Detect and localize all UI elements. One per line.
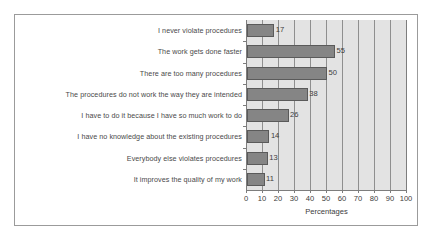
- x-tick-mark: [294, 190, 295, 193]
- x-tick-mark: [262, 190, 263, 193]
- y-tick-mark: [243, 63, 246, 64]
- category-label: I have no knowledge about the existing p…: [77, 126, 242, 147]
- category-axis-labels: I never violate proceduresThe work gets …: [18, 20, 246, 190]
- y-tick-mark: [243, 169, 246, 170]
- bar: [247, 24, 274, 37]
- x-tick-mark: [246, 190, 247, 193]
- category-label: I never violate procedures: [158, 20, 242, 41]
- x-tick-mark: [390, 190, 391, 193]
- x-tick-label: 100: [396, 194, 416, 204]
- bar-value-label: 14: [271, 129, 279, 143]
- bar: [247, 152, 268, 165]
- x-tick-mark: [358, 190, 359, 193]
- y-tick-mark: [243, 126, 246, 127]
- plot-area: 1755503826141311: [246, 20, 407, 190]
- x-tick-mark: [374, 190, 375, 193]
- y-tick-mark: [243, 148, 246, 149]
- y-tick-mark: [243, 41, 246, 42]
- category-label: Everybody else violates procedures: [127, 148, 242, 169]
- bar: [247, 109, 289, 122]
- x-tick-mark: [310, 190, 311, 193]
- y-tick-mark: [243, 105, 246, 106]
- bar-row: 26: [247, 105, 407, 126]
- bar-value-label: 17: [276, 23, 284, 37]
- category-label: The procedures do not work the way they …: [66, 84, 242, 105]
- bar-value-label: 26: [290, 108, 298, 122]
- bar: [247, 45, 335, 58]
- bar-value-label: 38: [309, 87, 317, 101]
- bar-value-label: 50: [329, 66, 337, 80]
- category-label: I have to do it because I have so much w…: [81, 105, 242, 126]
- chart-figure: I never violate proceduresThe work gets …: [0, 0, 434, 241]
- bar-value-label: 55: [337, 44, 345, 58]
- category-label: There are too many procedures: [140, 63, 242, 84]
- bar: [247, 173, 265, 186]
- bar-value-label: 13: [269, 151, 277, 165]
- bar: [247, 67, 327, 80]
- x-axis-title: Percentages: [246, 207, 407, 216]
- bar-row: 38: [247, 84, 407, 105]
- bar-row: 55: [247, 41, 407, 62]
- x-tick-mark: [342, 190, 343, 193]
- x-tick-mark: [278, 190, 279, 193]
- y-tick-mark: [243, 84, 246, 85]
- x-tick-mark: [326, 190, 327, 193]
- bar-value-label: 11: [266, 172, 274, 186]
- bar: [247, 88, 308, 101]
- bar-row: 13: [247, 148, 407, 169]
- bar: [247, 130, 269, 143]
- category-label: The work gets done faster: [158, 41, 242, 62]
- bar-row: 17: [247, 20, 407, 41]
- bar-row: 50: [247, 63, 407, 84]
- x-tick-mark: [406, 190, 407, 193]
- category-label: It improves the quality of my work: [134, 169, 242, 190]
- bar-row: 11: [247, 169, 407, 190]
- bar-row: 14: [247, 126, 407, 147]
